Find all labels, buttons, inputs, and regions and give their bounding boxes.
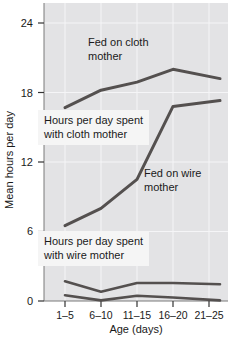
y-axis-title: Mean hours per day xyxy=(3,111,15,209)
x-tick-label-1-5: 1–5 xyxy=(47,309,83,322)
x-tick-label-11-15: 11–15 xyxy=(119,309,155,322)
annotation-hours-with-wire-mother: Hours per day spent with wire mother xyxy=(38,231,149,266)
harlow-attachment-chart: 24 18 12 6 0 1–5 6–10 11–15 16–20 21–25 … xyxy=(0,0,235,342)
annotation-fed-on-cloth-mother: Fed on cloth mother xyxy=(88,35,149,64)
y-tick-label-24: 24 xyxy=(0,16,33,30)
y-tick-label-0: 0 xyxy=(0,294,33,308)
y-tick-label-6: 6 xyxy=(0,224,33,238)
y-tick-label-18: 18 xyxy=(0,86,33,100)
x-tick-label-16-20: 16–20 xyxy=(155,309,191,322)
x-tick-label-6-10: 6–10 xyxy=(83,309,119,322)
annotation-hours-with-cloth-mother: Hours per day spent with cloth mother xyxy=(38,110,149,145)
x-tick-label-21-25: 21–25 xyxy=(191,309,227,322)
x-axis-title: Age (days) xyxy=(44,323,228,335)
annotation-fed-on-wire-mother: Fed on wire mother xyxy=(144,166,201,195)
